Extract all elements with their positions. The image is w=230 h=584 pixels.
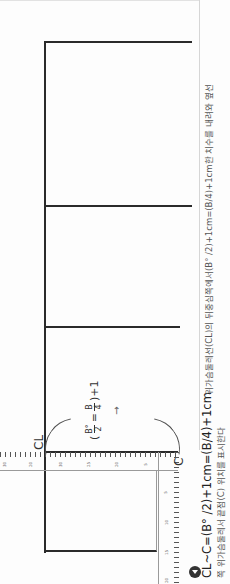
ruler-tick-label: 20 xyxy=(164,578,169,583)
fraction-b-degree-over-2: B° 2 xyxy=(86,424,103,434)
ruler-vertical-arm xyxy=(158,452,179,584)
cl-point-label: CL xyxy=(32,435,46,450)
ruler-tick-label: 5 xyxy=(143,463,148,466)
direction-arrow-icon: → xyxy=(111,406,122,414)
draft-line-top xyxy=(44,41,192,43)
draft-line-second xyxy=(44,205,192,207)
ruler-tick-label: 15 xyxy=(164,550,169,555)
formula-equals: = xyxy=(88,413,101,422)
caption-text-line1: 위가슴둘레선(CL)의 뒤중심쪽에서(B° /2)+1cm=(B/4)+1cm한… xyxy=(202,84,214,395)
caption-separator xyxy=(199,0,200,450)
caption-formula: CL~C=(B° /2)+1cm=(B/4)+1cm xyxy=(200,392,214,578)
draft-line-third xyxy=(44,326,180,328)
ruler-tick-label: 20 xyxy=(28,462,33,467)
ruler-tick-label: 5 xyxy=(163,491,168,494)
caption-text-line2: 쪽 위가슴둘레서 끝점(C) 위치를 표시한다 xyxy=(214,427,226,578)
ruler-tick-label: 20 xyxy=(114,462,119,467)
ruler-tick-label: 10 xyxy=(164,520,169,525)
ruler-tick-label: 25 xyxy=(86,462,91,467)
fraction-b-over-4: B 4 xyxy=(86,403,103,411)
ruler-tick-label: 30 xyxy=(2,462,7,467)
ruler-inner-square xyxy=(45,470,157,552)
formula-close: )+1 xyxy=(88,380,101,401)
formula-open: ( xyxy=(88,436,101,440)
pattern-page: 30 20 30 25 20 5 5 10 15 20 CL C ( B° 2 … xyxy=(0,0,230,584)
ruler-tick-label: 30 xyxy=(58,462,63,467)
measurement-formula: ( B° 2 = B 4 )+1 xyxy=(86,380,103,440)
page-top-border xyxy=(0,0,200,1)
c-point-label: C xyxy=(172,458,186,466)
